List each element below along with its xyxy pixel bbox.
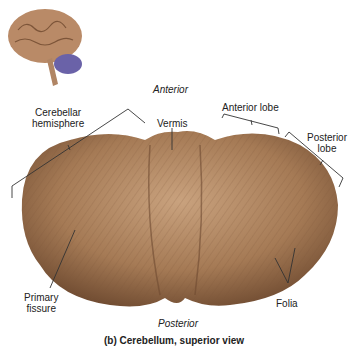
anterior-lobe-label: Anterior lobe (222, 102, 279, 113)
figure-caption: (b) Cerebellum, superior view (104, 335, 244, 346)
cerebellum (22, 131, 338, 306)
primary-fissure-label: Primary fissure (24, 292, 58, 314)
folia-label: Folia (276, 298, 298, 309)
brain-inset-icon (8, 9, 82, 86)
posterior-label: Posterior (158, 318, 198, 329)
posterior-lobe-label: Posterior lobe (307, 132, 347, 154)
vermis-label: Vermis (157, 118, 188, 129)
anterior-label: Anterior (153, 84, 188, 95)
cerebellar-hemisphere-label: Cerebellar hemisphere (32, 107, 84, 129)
cerebellum-highlight (54, 54, 82, 74)
